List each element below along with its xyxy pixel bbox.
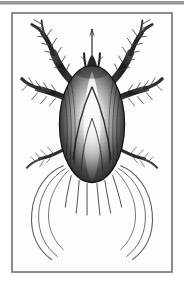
leg-pair-iv-right (116, 166, 153, 260)
leg-pair-i-right (113, 20, 152, 81)
leg-pair-ii-left (22, 78, 67, 106)
plate-interior (13, 14, 171, 271)
leg-pair-iii-left (27, 147, 64, 168)
plate-frame (11, 12, 173, 273)
leg-pair-iii-right (121, 147, 158, 168)
leg-pair-iv-left (31, 166, 68, 260)
illustration-page: tick-mite-dorsal-view (0, 0, 184, 283)
idiosoma-body (59, 65, 124, 185)
leg-pair-ii-right (117, 78, 162, 106)
top-divider-rule (0, 1, 184, 5)
tick-figure (14, 15, 170, 270)
leg-pair-i-left (32, 20, 71, 81)
tick-illustration-svg (14, 15, 170, 270)
